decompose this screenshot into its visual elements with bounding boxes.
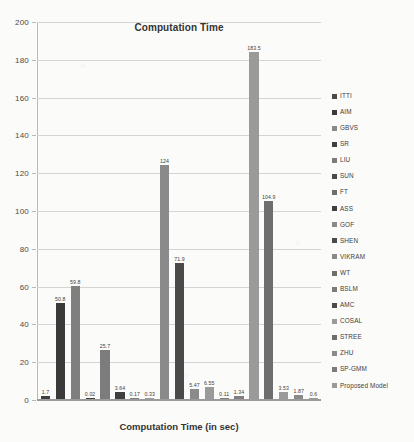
legend-item-gbvs[interactable]: GBVS [332, 120, 412, 136]
legend-item-label: AMC [340, 302, 355, 308]
legend-item-proposed-model[interactable]: Proposed Model [332, 378, 412, 394]
legend-item-stree[interactable]: STREE [332, 329, 412, 345]
legend-item-vikram[interactable]: VIKRAM [332, 249, 412, 265]
bar-series: 1.750.859.80.0225.73.640.170.3312471.95.… [38, 22, 321, 399]
y-axis-tick [32, 135, 36, 136]
bar-aim[interactable]: 50.8 [56, 303, 65, 399]
legend-item-amc[interactable]: AMC [332, 297, 412, 313]
legend-item-label: COSAL [340, 318, 362, 324]
bar-value-label: 25.7 [100, 343, 111, 349]
legend-swatch-icon [332, 222, 337, 227]
bar-sr[interactable]: 0.02 [86, 398, 95, 399]
bar-cosal[interactable]: 183.5 [249, 52, 258, 399]
legend-item-ft[interactable]: FT [332, 185, 412, 201]
y-axis-tick [32, 60, 36, 61]
legend-swatch-icon [332, 238, 337, 243]
bar-gbvs[interactable]: 59.8 [71, 286, 80, 399]
legend-item-label: ASS [340, 206, 353, 212]
bar-value-label: 104.9 [262, 194, 275, 200]
legend-item-label: GOF [340, 222, 354, 228]
x-axis-title: Computation Time (in sec) [37, 421, 321, 432]
legend-swatch-icon [332, 142, 337, 147]
legend-item-zhu[interactable]: ZHU [332, 346, 412, 362]
legend-item-liu[interactable]: LIU [332, 152, 412, 168]
bar-ft[interactable]: 0.17 [130, 398, 139, 399]
legend-swatch-icon [332, 335, 337, 340]
legend-item-label: VIKRAM [340, 254, 365, 260]
bar-bslm[interactable]: 0.11 [220, 398, 229, 399]
legend-item-ass[interactable]: ASS [332, 201, 412, 217]
y-axis-tick-label: 200 [15, 18, 29, 27]
y-axis-tick [32, 362, 36, 363]
bar-value-label: 0.6 [310, 391, 318, 397]
legend-item-gof[interactable]: GOF [332, 217, 412, 233]
bar-value-label: 0.02 [85, 391, 96, 397]
bar-value-label: 0.17 [130, 391, 141, 397]
legend-swatch-icon [332, 190, 337, 195]
y-axis-tick-label: 60 [20, 282, 29, 291]
legend-swatch-icon [332, 287, 337, 292]
legend-item-label: SP-GMM [340, 366, 367, 372]
y-axis-tick [32, 287, 36, 288]
y-axis-tick-label: 80 [20, 244, 29, 253]
bar-liu[interactable]: 25.7 [100, 350, 109, 399]
legend-item-label: WT [340, 270, 350, 276]
chart-legend: ITTIAIMGBVSSRLIUSUNFTASSGOFSHENVIKRAMWTB… [332, 88, 412, 394]
y-axis-tick-label: 40 [20, 320, 29, 329]
y-axis-tick [32, 98, 36, 99]
bar-vikram[interactable]: 5.47 [190, 389, 199, 399]
bar-value-label: 0.11 [219, 391, 229, 397]
y-axis-tick-label: 180 [15, 55, 29, 64]
bar-gof[interactable]: 124 [160, 165, 169, 399]
legend-item-label: SUN [340, 173, 354, 179]
bar-proposed-model[interactable]: 0.6 [309, 398, 318, 399]
legend-swatch-icon [332, 383, 337, 388]
legend-item-label: ZHU [340, 350, 353, 356]
legend-swatch-icon [332, 110, 337, 115]
y-axis-tick [32, 324, 36, 325]
bar-ass[interactable]: 0.33 [145, 398, 154, 399]
legend-item-label: ITTI [340, 93, 352, 99]
bar-value-label: 3.53 [279, 385, 290, 391]
bar-stree[interactable]: 104.9 [264, 201, 273, 399]
y-axis-tick [32, 211, 36, 212]
legend-swatch-icon [332, 367, 337, 372]
y-axis-tick-label: 160 [15, 93, 29, 102]
bar-itti[interactable]: 1.7 [41, 396, 50, 399]
legend-item-shen[interactable]: SHEN [332, 233, 412, 249]
bar-value-label: 1.7 [42, 389, 50, 395]
legend-swatch-icon [332, 303, 337, 308]
legend-item-itti[interactable]: ITTI [332, 88, 412, 104]
legend-swatch-icon [332, 158, 337, 163]
plot-area: 020406080100120140160180200 1.750.859.80… [37, 22, 321, 400]
bar-value-label: 50.8 [55, 296, 66, 302]
legend-swatch-icon [332, 351, 337, 356]
bar-value-label: 3.64 [115, 385, 126, 391]
legend-item-wt[interactable]: WT [332, 265, 412, 281]
bar-zhu[interactable]: 3.53 [279, 392, 288, 399]
bar-value-label: 71.9 [174, 256, 185, 262]
bar-value-label: 124 [160, 158, 169, 164]
legend-item-sr[interactable]: SR [332, 136, 412, 152]
bar-shen[interactable]: 71.9 [175, 263, 184, 399]
legend-item-cosal[interactable]: COSAL [332, 313, 412, 329]
legend-item-sp-gmm[interactable]: SP-GMM [332, 362, 412, 378]
bar-sp-gmm[interactable]: 1.87 [294, 395, 303, 399]
legend-item-bslm[interactable]: BSLM [332, 281, 412, 297]
bar-amc[interactable]: 1.34 [234, 396, 243, 399]
legend-item-sun[interactable]: SUN [332, 168, 412, 184]
y-axis-tick-label: 20 [20, 358, 29, 367]
bar-wt[interactable]: 6.55 [205, 387, 214, 399]
legend-swatch-icon [332, 319, 337, 324]
y-axis-tick-label: 100 [15, 207, 29, 216]
bar-sun[interactable]: 3.64 [115, 392, 124, 399]
gridline [37, 400, 321, 401]
legend-item-label: LIU [340, 157, 350, 163]
legend-swatch-icon [332, 126, 337, 131]
bar-value-label: 1.87 [293, 388, 304, 394]
bar-value-label: 5.47 [189, 382, 200, 388]
legend-item-label: FT [340, 189, 348, 195]
bar-value-label: 59.8 [70, 279, 81, 285]
legend-item-label: SHEN [340, 238, 358, 244]
legend-item-aim[interactable]: AIM [332, 104, 412, 120]
